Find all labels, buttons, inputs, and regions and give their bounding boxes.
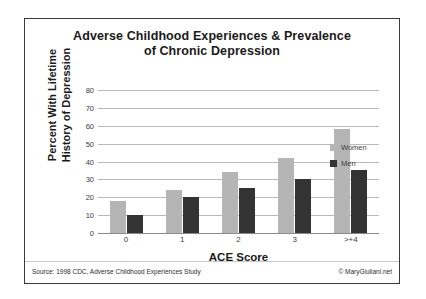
bar-men-2 [239, 188, 255, 233]
bar-men->+4 [351, 170, 367, 233]
y-tick-label-30: 30 [86, 175, 94, 184]
chart-footer: Source: 1998 CDC, Adverse Childhood Expe… [25, 263, 399, 279]
source-note: Source: 1998 CDC, Adverse Childhood Expe… [32, 268, 201, 275]
y-tick-label-60: 60 [86, 121, 94, 130]
bar-men-1 [183, 197, 199, 233]
x-tick-label-2: 2 [218, 235, 258, 244]
legend-swatch-men-icon [330, 160, 337, 167]
x-tick-label-0: 0 [106, 235, 146, 244]
chart-figure: Adverse Childhood Experiences & Prevalen… [24, 18, 400, 284]
legend-label-men: Men [341, 159, 356, 168]
footer-divider [25, 261, 399, 262]
bar-men-3 [295, 179, 311, 233]
bar-group [278, 90, 311, 233]
y-tick-label-40: 40 [86, 157, 94, 166]
y-tick-label-10: 10 [86, 211, 94, 220]
bar-women-2 [222, 172, 238, 233]
y-tick-label-70: 70 [86, 103, 94, 112]
chart-title-line-1: Adverse Childhood Experiences & Prevalen… [25, 29, 399, 44]
bar-group [222, 90, 255, 233]
legend-swatch-women-icon [330, 144, 337, 151]
x-tick-label-1: 1 [162, 235, 202, 244]
chart-legend: Women Men [330, 143, 367, 175]
legend-item-women: Women [330, 143, 367, 152]
bar-women-1 [166, 190, 182, 233]
y-axis-label: Percent With Lifetime History of Depress… [45, 30, 73, 180]
x-tick-label->+4: >+4 [331, 235, 371, 244]
y-tick-label-80: 80 [86, 86, 94, 95]
y-tick-label-50: 50 [86, 139, 94, 148]
bar-group [110, 90, 143, 233]
bar-group [166, 90, 199, 233]
bar-women-3 [278, 158, 294, 233]
chart-title-line-2: of Chronic Depression [25, 44, 399, 59]
y-axis-label-line-1: Percent With Lifetime [45, 30, 59, 180]
copyright-note: © MaryGiuliani.net [338, 268, 392, 275]
gridline-0: 0 [98, 233, 379, 234]
x-tick-label-3: 3 [275, 235, 315, 244]
y-tick-label-0: 0 [90, 229, 94, 238]
y-axis-label-line-2: History of Depression [59, 30, 73, 180]
chart-title: Adverse Childhood Experiences & Prevalen… [25, 29, 399, 59]
y-tick-label-20: 20 [86, 193, 94, 202]
legend-item-men: Men [330, 159, 367, 168]
bar-men-0 [127, 215, 143, 233]
legend-label-women: Women [341, 143, 367, 152]
x-axis-tick-labels: 0123>+4 [98, 235, 379, 244]
bar-women-0 [110, 201, 126, 233]
